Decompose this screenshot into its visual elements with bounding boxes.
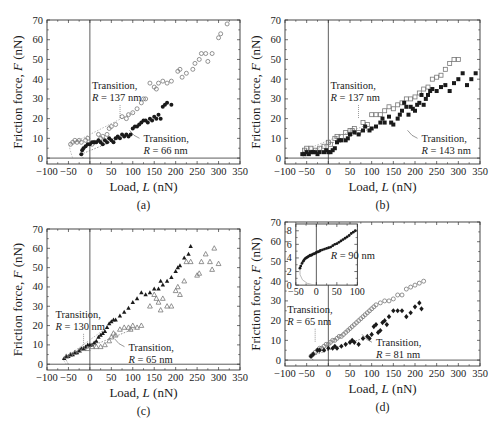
- x-tick-label: 250: [429, 368, 445, 379]
- data-point-open-square: [383, 109, 387, 113]
- data-point-filled-triangle: [173, 269, 177, 273]
- x-tick-label: 100: [350, 286, 365, 297]
- data-point-open-circle: [191, 67, 195, 71]
- data-point-open-circle: [148, 81, 152, 85]
- x-tick-label: 100: [125, 372, 141, 383]
- y-axis-title: Friction force, F (nN): [248, 35, 263, 148]
- x-axis-title: Load, L (nN): [348, 179, 416, 194]
- data-point-filled-circle: [150, 119, 154, 123]
- y-tick-label: 30: [271, 93, 282, 104]
- y-tick-label: 0: [276, 153, 281, 164]
- data-point-open-square: [396, 103, 400, 107]
- data-point-filled-triangle: [186, 252, 190, 256]
- data-point-filled-diamond: [343, 342, 347, 347]
- x-tick-label: −100: [274, 166, 296, 177]
- y-tick-label: 10: [33, 339, 44, 350]
- y-tick-label: 40: [33, 74, 44, 85]
- data-point-filled-square: [424, 97, 428, 101]
- data-point-open-circle: [396, 293, 400, 297]
- data-point-open-square: [378, 113, 382, 117]
- data-point-open-triangle: [160, 296, 165, 300]
- y-tick-label: 40: [271, 276, 282, 287]
- x-tick-label: 200: [168, 166, 184, 177]
- data-point-open-triangle: [148, 304, 153, 308]
- data-point-filled-triangle: [122, 310, 126, 314]
- annotation-line1: Transition,: [128, 342, 173, 353]
- y-tick-label: 60: [271, 236, 282, 247]
- data-point-open-circle: [114, 123, 118, 127]
- y-tick-label: 0: [38, 359, 43, 370]
- transition-annotation: Transition,R = 66 nm: [130, 130, 189, 156]
- data-point-open-circle: [206, 59, 210, 63]
- data-point-open-circle: [165, 81, 169, 85]
- y-tick-label: 8: [287, 225, 292, 236]
- panel-b-chart: −100−50050100150200250300350010203040506…: [248, 15, 488, 213]
- annotation-line2: R = 66 nm: [143, 145, 188, 156]
- data-point-open-circle: [413, 283, 417, 287]
- x-axis-title: Load, L (nN): [109, 385, 177, 400]
- transition-annotation: Transition,R = 65 nm: [286, 304, 332, 343]
- data-point-open-circle: [161, 79, 165, 83]
- y-tick-label: 2: [287, 266, 292, 277]
- data-point-filled-square: [346, 136, 350, 140]
- data-point-filled-diamond: [361, 336, 365, 341]
- x-tick-label: 50: [106, 166, 117, 177]
- y-tick-label: 10: [33, 133, 44, 144]
- data-point-filled-square: [474, 71, 478, 75]
- data-point-filled-square: [407, 113, 411, 117]
- data-point-open-circle: [197, 57, 201, 61]
- data-point-open-circle: [184, 71, 188, 75]
- y-tick-label: 20: [33, 113, 44, 124]
- x-tick-label: −50: [60, 372, 76, 383]
- annotation-line2: R = 143 nm: [421, 145, 471, 156]
- data-point-filled-triangle: [188, 244, 192, 248]
- x-tick-label: 200: [168, 372, 184, 383]
- annotation-line1: Transition,: [56, 309, 101, 320]
- data-point-filled-square: [430, 87, 434, 91]
- data-point-open-circle: [225, 22, 229, 26]
- data-point-open-circle: [199, 52, 203, 56]
- annotation-line2: R = 65 nm: [286, 316, 331, 327]
- y-tick-label: 6: [287, 239, 292, 250]
- data-point-filled-triangle: [161, 283, 165, 287]
- data-point-open-square: [456, 57, 460, 61]
- x-tick-label: −100: [36, 372, 58, 383]
- y-tick-label: 10: [271, 335, 282, 346]
- data-point-filled-circle: [111, 140, 115, 144]
- x-tick-label: 150: [146, 166, 162, 177]
- data-point-open-circle: [124, 117, 128, 121]
- data-point-filled-square: [357, 132, 361, 136]
- data-point-filled-triangle: [152, 286, 156, 290]
- x-tick-label: 0: [87, 166, 92, 177]
- data-point-open-circle: [409, 285, 413, 289]
- panel-c-chart: −100−50050100150200250300350010203040506…: [10, 224, 248, 419]
- annotation-line2: R = 81 nm: [375, 349, 420, 360]
- data-point-filled-square: [387, 115, 391, 119]
- data-point-open-square: [426, 85, 430, 89]
- data-point-filled-square: [383, 121, 387, 125]
- data-point-open-square: [413, 95, 417, 99]
- data-point-filled-square: [469, 77, 473, 81]
- x-tick-label: 200: [407, 368, 423, 379]
- data-point-open-square: [452, 57, 456, 61]
- x-tick-label: 250: [429, 166, 445, 177]
- y-tick-label: 50: [33, 54, 44, 65]
- y-tick-label: 50: [33, 262, 44, 273]
- data-point-open-square: [435, 75, 439, 79]
- data-point-filled-circle: [159, 117, 163, 121]
- data-point-open-circle: [217, 36, 221, 40]
- data-point-filled-triangle: [158, 279, 162, 283]
- data-point-open-circle: [193, 61, 197, 65]
- data-point-open-circle: [126, 113, 130, 117]
- x-tick-label: 150: [385, 368, 401, 379]
- data-point-open-square: [361, 121, 365, 125]
- y-axis-title: Friction force, F (nN): [10, 243, 25, 356]
- data-point-open-triangle: [165, 304, 170, 308]
- data-point-filled-square: [402, 101, 406, 105]
- y-tick-label: 4: [287, 252, 292, 263]
- data-point-filled-triangle: [139, 290, 143, 294]
- y-tick-label: 0: [287, 280, 292, 291]
- data-point-filled-triangle: [148, 290, 152, 294]
- data-point-filled-square: [370, 126, 374, 130]
- data-point-filled-circle: [105, 140, 109, 144]
